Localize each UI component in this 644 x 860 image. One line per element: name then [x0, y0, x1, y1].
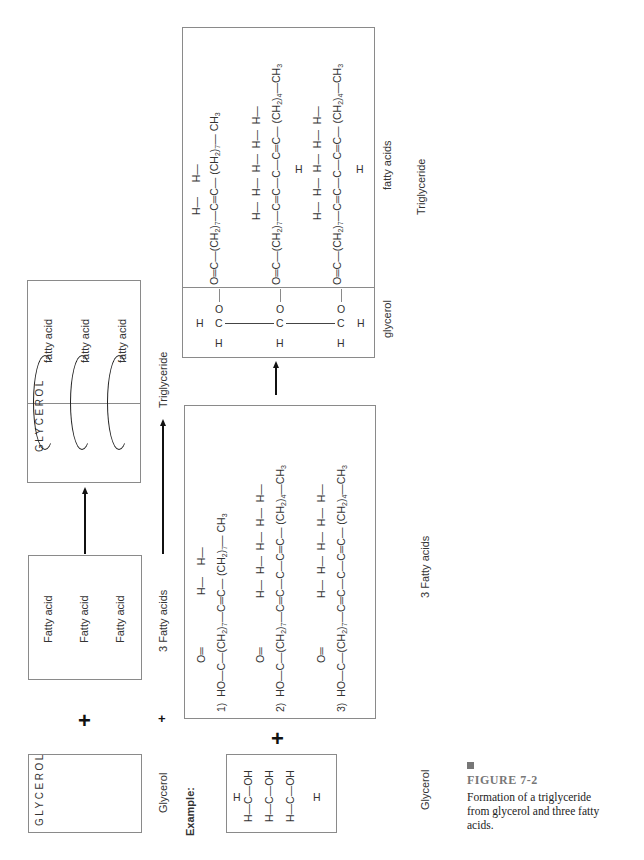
plus-icon-small: +	[158, 712, 166, 725]
bond	[225, 323, 274, 324]
three-fatty-acids-label: 3 Fatty acids	[157, 590, 169, 652]
tg-glycerol-h-b3: H	[337, 337, 345, 349]
caption-line-1: Formation of a triglyceride	[467, 790, 637, 804]
arrow-shaft-long	[162, 426, 164, 554]
example-fatty-acid-1: 1) HO—C—(CH2)7—C═C— (CH2)7— CH3	[215, 513, 228, 712]
triglyceride-chain-3-bottom-h: H	[356, 163, 364, 175]
figure-number: FIGURE 7-2	[467, 773, 538, 788]
caption-line-2: from glycerol and three fatty	[467, 804, 637, 818]
caption-line-3: acids.	[467, 818, 637, 832]
arrow-up-icon	[160, 419, 166, 426]
fatty-acid-bracket-1	[33, 355, 57, 450]
tg-glycerol-h-right: H	[357, 317, 365, 329]
bond	[341, 289, 342, 302]
fatty-acids-label: fatty acids	[381, 140, 393, 190]
arrow-shaft-example	[275, 368, 277, 395]
fatty-acid-bracket-2	[70, 355, 94, 450]
triglyceride-chain-3-hydrogens: H— H— H— H— H—	[311, 106, 323, 220]
figure-caption: Formation of a triglyceride from glycero…	[467, 790, 637, 832]
arrow-up-icon	[82, 487, 88, 494]
schematic-fatty-acid-1: fatty acid	[42, 319, 54, 363]
example-fatty-acid-1-carbonyl: O═	[195, 647, 207, 663]
bond	[286, 323, 335, 324]
plus-icon-example: +	[271, 728, 284, 750]
fatty-acid-item-1: Fatty acid	[42, 595, 54, 643]
tg-glycerol-o-2: O	[276, 303, 284, 315]
glycerol-fatty-acid-divider	[182, 287, 375, 288]
triglyceride-chain-1-hydrogens: H— H—	[190, 164, 202, 215]
example-fatty-acid-3-hydrogens: H— H— H— H— H—	[315, 484, 327, 598]
triglyceride-chain-1: O═C—(CH2)7—C═C— (CH2)7— CH3	[208, 112, 221, 285]
example-fatty-acid-2: 2) HO—C—(CH2)7—C═C—C—C═C— (CH2)4—CH3	[274, 465, 287, 712]
tg-glycerol-c-2: C	[276, 317, 284, 329]
example-fatty-acid-3-carbonyl: O═	[315, 647, 327, 663]
figure-marker-icon	[467, 762, 474, 769]
example-glycerol-h-top: H	[233, 791, 241, 803]
example-glycerol-row-3: H—C—OH	[284, 770, 296, 822]
arrow-up-icon	[273, 361, 279, 368]
tg-glycerol-o-1: O	[215, 303, 223, 315]
triglyceride-example-label: Triglyceride	[415, 159, 427, 215]
example-fatty-acid-3: 3) HO—C—(CH2)7—C═C—C—C═C— (CH2)4—CH3	[335, 465, 348, 712]
glycerol-letters: GLYCEROL	[34, 752, 45, 826]
schematic-fatty-acid-3: fatty acid	[116, 319, 128, 363]
example-three-fatty-acids-label: 3 Fatty acids	[419, 536, 431, 598]
example-fatty-acid-1-hydrogens: H— H—	[195, 547, 207, 595]
triglyceride-chain-2-hydrogens: H— H— H— H— H—	[250, 106, 262, 220]
plus-icon: +	[78, 710, 91, 732]
tg-glycerol-o-3: O	[337, 303, 345, 315]
triglyceride-chain-3: O═C—(CH2)7—C═C—C—C═C— (CH2)4—CH3	[331, 64, 344, 285]
example-glycerol-h-bottom: H	[313, 791, 321, 803]
glycerol-box	[28, 754, 142, 833]
fatty-acid-item-2: Fatty acid	[78, 595, 90, 643]
tg-glycerol-c-1: C	[215, 317, 223, 329]
fatty-acid-bracket-3	[107, 355, 131, 450]
triglyceride-chain-2-bottom-h: H	[295, 163, 303, 175]
schematic-fatty-acid-2: fatty acid	[79, 319, 91, 363]
example-fatty-acid-2-carbonyl: O═	[254, 647, 266, 663]
tg-glycerol-c-3: C	[337, 317, 345, 329]
example-glycerol-row-2: H—C—OH	[263, 770, 275, 822]
glycerol-small-label: glycerol	[381, 300, 393, 338]
bond	[280, 289, 281, 302]
tg-glycerol-h-b1: H	[215, 337, 223, 349]
tg-glycerol-h-b2: H	[276, 337, 284, 349]
triglyceride-schematic-label: Triglyceride	[157, 352, 169, 408]
glycerol-label: Glycerol	[157, 773, 169, 813]
arrow-shaft	[84, 494, 86, 554]
bond	[219, 289, 220, 302]
example-glycerol-row-1: H—C—OH	[242, 770, 254, 822]
fatty-acid-item-3: Fatty acid	[114, 595, 126, 643]
tg-glycerol-h-left: H	[196, 317, 204, 329]
example-glycerol-label: Glycerol	[419, 770, 431, 810]
example-heading: Example:	[184, 787, 196, 836]
example-fatty-acid-2-hydrogens: H— H— H— H— H—	[254, 484, 266, 598]
triglyceride-chain-2: O═C—(CH2)7—C═C—C—C═C— (CH2)4—CH3	[270, 64, 283, 285]
